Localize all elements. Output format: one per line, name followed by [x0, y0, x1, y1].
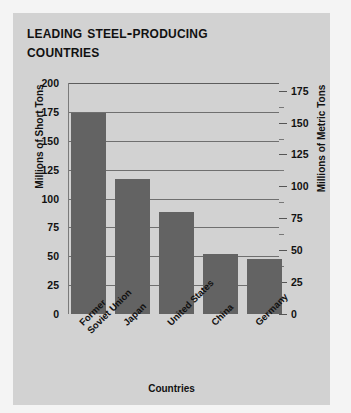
x-axis-tick-labels: FormerSoviet UnionJapanUnited StatesChin… [13, 316, 330, 386]
y-axis-right-tick-175: 175 [291, 85, 309, 97]
y-axis-right-tick-150: 150 [291, 117, 309, 129]
chart-title: Leading Steel-Producing Countries [27, 23, 312, 61]
y-axis-right-tickmark-0 [279, 314, 287, 315]
y-axis-right-tick-125: 125 [291, 148, 309, 160]
y-axis-left-tick-50: 50 [19, 250, 59, 262]
bar-series [69, 83, 291, 314]
chart-title-line-2: Countries [27, 42, 312, 61]
y-axis-left-tick-25: 25 [19, 279, 59, 291]
chart-title-line-1: Leading Steel-Producing [27, 23, 312, 42]
x-axis-title: Countries [13, 383, 330, 394]
y-axis-right-tick-100: 100 [291, 180, 309, 192]
y-axis-left-title: Millions of Short Tons [34, 67, 45, 207]
bar-former-soviet-union [71, 113, 106, 314]
y-axis-right-tick-75: 75 [291, 212, 303, 224]
y-axis-right-title: Millions of Metric Tons [316, 69, 327, 209]
y-axis-right-tick-25: 25 [291, 276, 303, 288]
y-axis-left-tick-75: 75 [19, 221, 59, 233]
y-axis-right-tick-50: 50 [291, 244, 303, 256]
chart-figure: Leading Steel-Producing Countries 025507… [13, 13, 330, 405]
